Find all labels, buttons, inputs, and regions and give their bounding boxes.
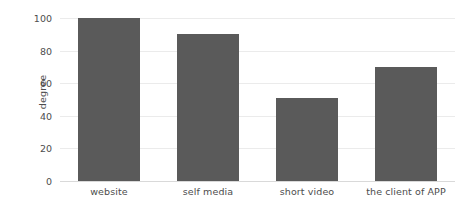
x-axis-line [60,181,455,182]
bar-self-media[interactable] [177,34,239,181]
bar-chart: degree 100 80 60 40 20 0 website self me… [0,0,458,210]
y-tick-label: 60 [0,78,52,89]
x-tick-label-short-video: short video [280,186,334,197]
y-tick-label: 20 [0,143,52,154]
bar-website[interactable] [78,18,140,181]
y-tick-label: 100 [0,13,52,24]
x-tick-label-website: website [90,186,128,197]
x-tick-label-the-client-of-app: the client of APP [366,186,446,197]
plot-area [60,18,455,181]
bar-short-video[interactable] [276,98,338,181]
bars-layer [60,18,455,181]
y-tick-label: 80 [0,45,52,56]
y-tick-label: 40 [0,110,52,121]
x-tick-label-self-media: self media [183,186,233,197]
x-axis-tick-labels: website self media short video the clien… [60,186,455,206]
y-tick-label: 0 [0,176,52,187]
bar-the-client-of-app[interactable] [375,67,437,181]
y-axis-tick-labels: 100 80 60 40 20 0 [0,0,52,210]
